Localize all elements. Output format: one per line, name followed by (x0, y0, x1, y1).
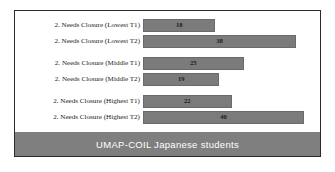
bar-group-highest: 2. Needs Closure (Highest T1) 22 2. Need… (15, 95, 320, 124)
slide-frame: 2. Needs Closure (Lowest T1) 18 2. Needs… (14, 10, 321, 157)
bar-label: 2. Needs Closure (Lowest T1) (15, 19, 143, 32)
bar-track: 22 (143, 95, 320, 108)
bar-label: 2. Needs Closure (Highest T2) (15, 111, 143, 124)
bar-value-label: 38 (216, 38, 223, 45)
footer-caption-band: UMAP-COIL Japanese students (15, 132, 320, 156)
bar-row: 2. Needs Closure (Lowest T1) 18 (15, 19, 320, 32)
bar-value-label: 18 (176, 22, 183, 29)
bar-row: 2. Needs Closure (Lowest T2) 38 (15, 35, 320, 48)
bar-fill: 25 (143, 57, 244, 70)
bar-fill: 19 (143, 73, 219, 86)
bar-row: 2. Needs Closure (Middle T1) 25 (15, 57, 320, 70)
bar-fill: 38 (143, 35, 296, 48)
footer-caption-text: UMAP-COIL Japanese students (96, 139, 239, 150)
bar-group-middle: 2. Needs Closure (Middle T1) 25 2. Needs… (15, 57, 320, 86)
bar-row: 2. Needs Closure (Highest T2) 40 (15, 111, 320, 124)
bar-chart: 2. Needs Closure (Lowest T1) 18 2. Needs… (15, 11, 320, 132)
bar-label: 2. Needs Closure (Middle T1) (15, 57, 143, 70)
bar-label: 2. Needs Closure (Middle T2) (15, 73, 143, 86)
bar-track: 38 (143, 35, 320, 48)
bar-track: 40 (143, 111, 320, 124)
bar-label: 2. Needs Closure (Highest T1) (15, 95, 143, 108)
bar-row: 2. Needs Closure (Highest T1) 22 (15, 95, 320, 108)
bar-fill: 22 (143, 95, 232, 108)
bar-group-lowest: 2. Needs Closure (Lowest T1) 18 2. Needs… (15, 19, 320, 48)
bar-fill: 40 (143, 111, 304, 124)
bar-value-label: 40 (220, 114, 227, 121)
bar-track: 19 (143, 73, 320, 86)
bar-value-label: 25 (190, 60, 197, 67)
bar-row: 2. Needs Closure (Middle T2) 19 (15, 73, 320, 86)
bar-fill: 18 (143, 19, 215, 32)
bar-value-label: 22 (184, 98, 191, 105)
bar-value-label: 19 (178, 76, 185, 83)
bar-track: 25 (143, 57, 320, 70)
bar-label: 2. Needs Closure (Lowest T2) (15, 35, 143, 48)
bar-track: 18 (143, 19, 320, 32)
